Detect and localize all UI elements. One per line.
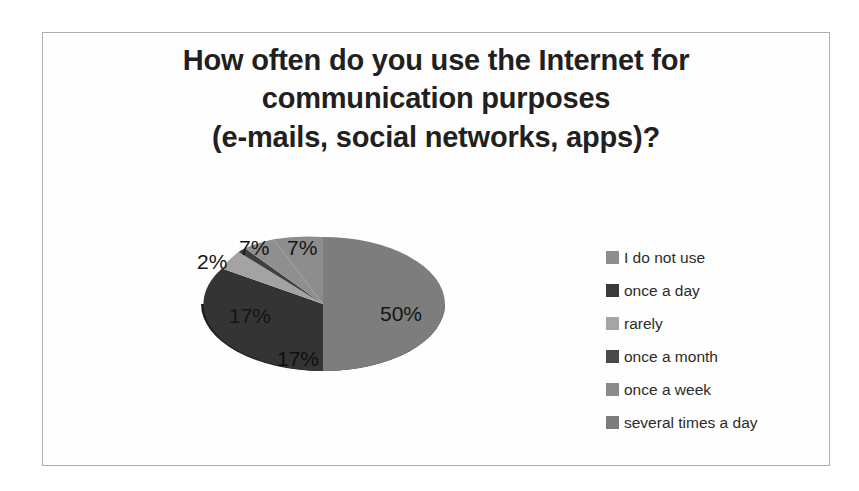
legend-label: once a week [624,382,711,398]
legend-label: once a day [624,283,700,299]
legend-label: I do not use [624,250,705,266]
pie-label-i-do-not-use: 7% [287,237,317,258]
legend-item-rarely[interactable]: rarely [606,307,821,340]
legend-item-once-a-week[interactable]: once a week [606,373,821,406]
legend-label: several times a day [624,415,758,431]
legend-label: rarely [624,316,663,332]
legend-item-several-times-a-day[interactable]: several times a day [606,406,821,439]
pie-label-once-a-month: 2% [197,251,227,272]
legend-swatch-icon [606,317,619,330]
legend-label: once a month [624,349,718,365]
pie-label-rarely: 17% [229,305,271,326]
chart-title: How often do you use the Internet for co… [43,41,829,156]
chart-legend: I do not use once a day rarely once a mo… [606,241,821,439]
legend-swatch-icon [606,416,619,429]
pie-label-once-a-week: 7% [239,237,269,258]
legend-item-once-a-day[interactable]: once a day [606,274,821,307]
legend-item-once-a-month[interactable]: once a month [606,340,821,373]
chart-frame: How often do you use the Internet for co… [42,32,830,466]
chart-title-line-1: How often do you use the Internet for [43,41,829,79]
chart-title-line-2: communication purposes [43,79,829,117]
legend-swatch-icon [606,350,619,363]
pie-label-several-times-a-day: 50% [380,303,422,324]
chart-title-line-3: (e-mails, social networks, apps)? [43,118,829,156]
legend-swatch-icon [606,284,619,297]
pie-label-once-a-day: 17% [277,348,319,369]
pie-chart-plot-area: 2% 7% 7% 17% 17% 50% [43,229,588,465]
legend-item-i-do-not-use[interactable]: I do not use [606,241,821,274]
legend-swatch-icon [606,251,619,264]
legend-swatch-icon [606,383,619,396]
